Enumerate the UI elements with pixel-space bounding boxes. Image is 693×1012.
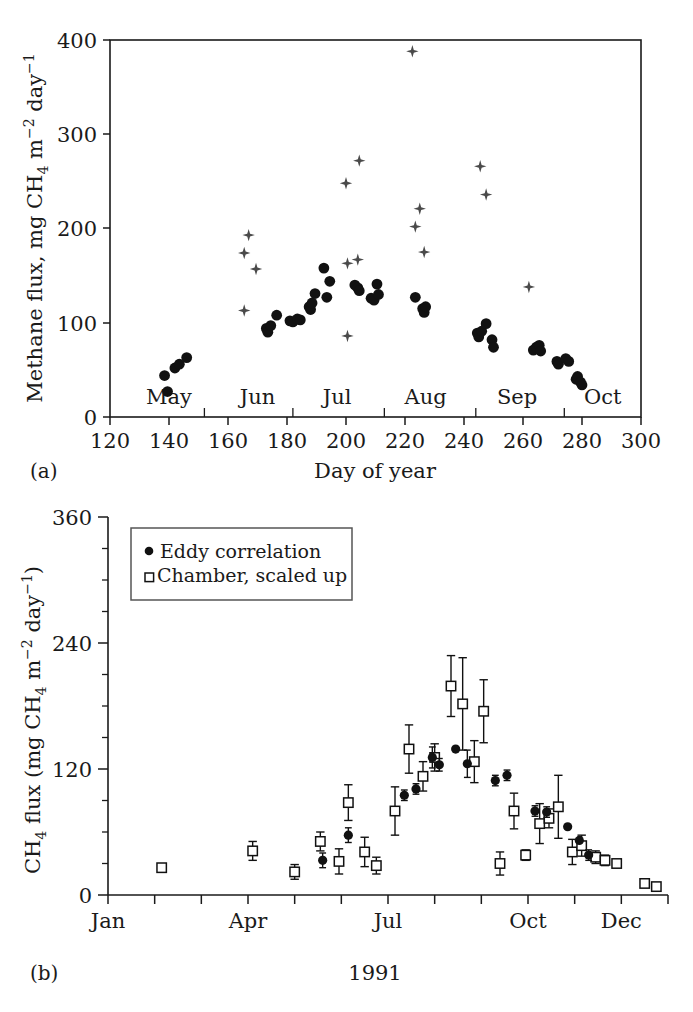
svg-text:Methane flux, mg CH4 m−2 day−: Methane flux, mg CH4 m−2 day−1 [21,53,51,403]
panel-b-ytick-label-0: 0 [79,884,92,908]
panel-b-eddy-point [428,753,437,762]
panel-a-cross-point [341,330,353,342]
panel-a-cross-markers [238,45,535,342]
panel-b-chamber-point [509,806,518,815]
panel-a-xtick-label-200: 200 [326,429,366,453]
panel-a-cross-point [238,304,250,316]
panel-a-data-point [321,292,332,303]
panel-b-y-axis-labels: 0120240360 [52,506,92,908]
panel-b-eddy-point [502,771,511,780]
panel-a-xtick-label-140: 140 [149,429,189,453]
panel-a-data-point [310,288,321,299]
panel-a-ytick-0: 0 [84,406,97,430]
panel-b-svg: CH4 flux (mg CH4 m−2 day−1) 0120240360 J… [0,480,693,1012]
panel-a-cross-point [418,246,430,258]
panel-b-chamber-point [248,846,257,855]
panel-a-month-labels: MayJunJulAugSepOct [146,385,622,409]
panel-a-cross-point [474,160,486,172]
panel-b-chamber-point [360,847,369,856]
panel-a-xtick-label-160: 160 [208,429,248,453]
panel-b-chamber-point [446,681,455,690]
panel-b-chamber-point [316,837,325,846]
panel-a-month-label-aug: Aug [404,385,447,409]
panel-a-month-label-jun: Jun [238,385,275,409]
panel-b-chamber-point [640,879,649,888]
panel-a-ytick-300: 300 [57,123,97,147]
panel-b-eddy-point [318,856,327,865]
panel-a-ytick-400: 400 [57,29,97,53]
panel-a-y-axis: 400 300 200 100 0 [57,29,110,430]
panel-a-xtick-label-280: 280 [562,429,602,453]
panel-a-data-point [295,315,306,326]
panel-a-data-point [354,285,365,296]
panel-b-eddy-point [584,851,593,860]
panel-a-month-label-sep: Sep [497,385,537,409]
panel-b-y-axis-title: CH4 flux (mg CH4 m−2 day−1) [19,566,49,874]
panel-a-data-point [307,298,318,309]
panel-b-xtick-label-oct: Oct [509,909,547,933]
panel-b-eddy-point [451,744,460,753]
panel-b-chamber-point [290,867,299,876]
panel-a-cross-point [250,263,262,275]
panel-b-chamber-point [404,744,413,753]
legend-marker-filled-circle [145,547,154,556]
panel-b-x-axis-labels: JanAprJulOctDec [89,909,642,933]
panel-a-cross-point [414,203,426,215]
panel-a-data-point [373,289,384,300]
panel-a-xtick-label-240: 240 [444,429,484,453]
panel-b-eddy-point [400,791,409,800]
panel-b-ytick-label-360: 360 [52,506,92,530]
panel-b-chamber-point [521,850,530,859]
panel-b-chamber-point [612,859,621,868]
panel-b-chamber-point [334,857,343,866]
panel-b-eddy-point [435,760,444,769]
panel-a-month-label-oct: Oct [584,385,622,409]
panel-a-data-point [488,342,499,353]
panel-a-cross-point [406,45,418,57]
panel-a-data-point [324,276,335,287]
panel-b-chamber-point [418,772,427,781]
svg-text:CH4 flux (mg CH4 m−2 day−1): CH4 flux (mg CH4 m−2 day−1) [19,566,49,874]
panel-a-data-point [162,386,173,397]
panel-a-ytick-100: 100 [57,312,97,336]
panel-a-cross-point [523,281,535,293]
panel-b-chamber-point [344,798,353,807]
panel-a-xtick-label-300: 300 [621,429,661,453]
panel-b-eddy-point [542,807,551,816]
panel-b-xtick-label-dec: Dec [601,909,642,933]
panel-b-eddy-point [575,836,584,845]
legend-label-chamber-scaled-up: Chamber, scaled up [157,564,347,586]
panel-a-cross-point [353,154,365,166]
panel-a-svg: Methane flux, mg CH4 m−2 day−1 400 300 2… [0,0,693,490]
panel-b-x-axis-ticks [108,895,668,904]
panel-b-chamber-point [554,802,563,811]
panel-a-cross-point [480,188,492,200]
panel-a-ytick-200: 200 [57,217,97,241]
panel-a-cross-point [340,177,352,189]
panel-a-month-label-jul: Jul [321,385,352,409]
panel-b-chamber-point [458,699,467,708]
panel-b-legend: Eddy correlation Chamber, scaled up [131,528,352,600]
panel-b-xtick-label-jan: Jan [89,909,125,933]
panel-b-eddy-point [463,759,472,768]
panel-b-y-axis-ticks [98,517,108,895]
panel-b-eddy-point [344,831,353,840]
panel-a-data-point [271,310,282,321]
panel-a-data-point [577,380,588,391]
panel-a-data-point [159,370,170,381]
panel-b-ytick-label-120: 120 [52,758,92,782]
panel-b-chamber-point [157,863,166,872]
panel-b-xtick-label-jul: Jul [372,909,403,933]
panel-a-cross-point [409,220,421,232]
legend-label-eddy-correlation: Eddy correlation [160,540,321,562]
panel-a-data-point [318,263,329,274]
panel-a-y-axis-title: Methane flux, mg CH4 m−2 day−1 [21,53,51,403]
panel-b-scatter-chart: CH4 flux (mg CH4 m−2 day−1) 0120240360 J… [0,480,693,1012]
panel-b-chamber-point [568,847,577,856]
panel-b-eddy-point [563,822,572,831]
panel-a-xtick-label-120: 120 [90,429,130,453]
panel-a-data-point [535,346,546,357]
panel-a-data-point [410,292,421,303]
panel-a-cross-point [352,253,364,265]
panel-b-chamber-point [495,859,504,868]
